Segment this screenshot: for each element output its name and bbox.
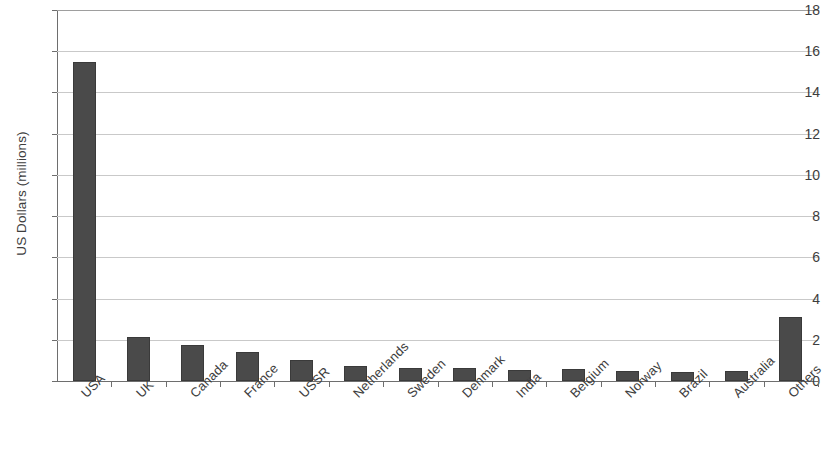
x-tick-mark: [818, 382, 819, 387]
y-tick-mark: [52, 51, 57, 52]
gridline-2: [57, 340, 818, 341]
bar: [73, 62, 96, 381]
gridline-14: [57, 92, 818, 93]
gridline-4: [57, 299, 818, 300]
y-tick-mark: [52, 10, 57, 11]
y-tick-mark: [52, 340, 57, 341]
x-tick-mark: [329, 382, 330, 387]
y-axis-title: US Dollars (millions): [14, 94, 29, 294]
y-tick-mark: [52, 134, 57, 135]
x-tick-mark: [274, 382, 275, 387]
y-tick-mark: [52, 381, 57, 382]
y-tick-label: 12: [774, 126, 820, 142]
y-tick-label: 18: [774, 2, 820, 18]
plot-area: [57, 10, 818, 381]
gridline-10: [57, 175, 818, 176]
y-tick-mark: [52, 257, 57, 258]
x-tick-mark: [111, 382, 112, 387]
x-tick-mark: [655, 382, 656, 387]
gridline-12: [57, 134, 818, 135]
y-tick-label: 8: [774, 208, 820, 224]
gridline-8: [57, 216, 818, 217]
y-tick-label: 14: [774, 84, 820, 100]
y-tick-mark: [52, 92, 57, 93]
y-tick-label: 6: [774, 249, 820, 265]
y-tick-label: 4: [774, 291, 820, 307]
gridline-16: [57, 51, 818, 52]
x-tick-mark: [220, 382, 221, 387]
x-tick-mark: [546, 382, 547, 387]
x-tick-mark: [492, 382, 493, 387]
y-tick-label: 10: [774, 167, 820, 183]
y-tick-mark: [52, 175, 57, 176]
gridline-18: [57, 10, 818, 11]
x-tick-mark: [438, 382, 439, 387]
y-tick-mark: [52, 216, 57, 217]
x-tick-mark: [166, 382, 167, 387]
x-tick-mark: [601, 382, 602, 387]
x-tick-mark: [764, 382, 765, 387]
x-tick-mark: [709, 382, 710, 387]
y-tick-mark: [52, 299, 57, 300]
x-tick-mark: [383, 382, 384, 387]
y-tick-label: 2: [774, 332, 820, 348]
gridline-6: [57, 257, 818, 258]
y-tick-label: 16: [774, 43, 820, 59]
bar: [127, 337, 150, 381]
bar: [779, 317, 802, 381]
